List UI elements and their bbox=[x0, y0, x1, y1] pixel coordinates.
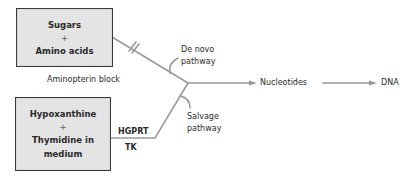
dna-label: DNA bbox=[381, 77, 399, 88]
tk-label: TK bbox=[125, 142, 137, 153]
de-novo-label: pathway bbox=[181, 56, 215, 67]
pathway-diagram: Sugars + Amino acids Hypoxanthine + Thym… bbox=[0, 0, 417, 179]
arrowhead-icon bbox=[369, 81, 377, 86]
salvage-label: Salvage bbox=[187, 111, 219, 122]
box-hypoxanthine-thymidine: Hypoxanthine + Thymidine in medium bbox=[15, 97, 111, 171]
aminopterin-block-label: Aminopterin block bbox=[47, 74, 120, 85]
box-text: Hypoxanthine bbox=[30, 107, 97, 121]
plus-icon: + bbox=[61, 32, 69, 44]
de-novo-line bbox=[112, 37, 188, 83]
box-text: medium bbox=[44, 147, 83, 161]
salvage-label: pathway bbox=[187, 123, 221, 134]
salvage-bracket-icon bbox=[180, 96, 190, 108]
box-text: Sugars bbox=[48, 18, 81, 32]
arrowhead-icon bbox=[249, 81, 257, 86]
box-sugars-amino-acids: Sugars + Amino acids bbox=[16, 8, 113, 67]
plus-icon: + bbox=[59, 121, 67, 133]
box-text: Thymidine in bbox=[32, 133, 94, 147]
de-novo-bracket-icon bbox=[170, 58, 178, 73]
de-novo-label: De novo bbox=[181, 44, 214, 55]
box-text: Amino acids bbox=[35, 44, 93, 58]
hgprt-label: HGPRT bbox=[118, 126, 148, 137]
nucleotides-label: Nucleotides bbox=[260, 77, 307, 88]
